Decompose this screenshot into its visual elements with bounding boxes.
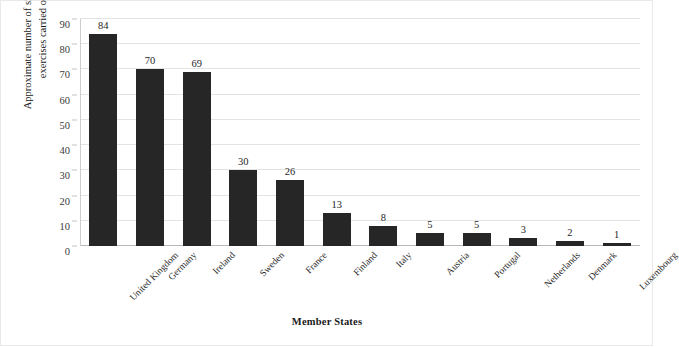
y-tick-mark bbox=[72, 69, 77, 70]
bar-group: 26 bbox=[267, 19, 314, 246]
bar bbox=[416, 233, 444, 246]
x-axis-title: Member States bbox=[0, 316, 654, 327]
bar bbox=[509, 238, 537, 246]
y-tick-mark bbox=[72, 44, 77, 45]
bar bbox=[136, 69, 164, 246]
bar-value-label: 2 bbox=[567, 227, 572, 238]
bar bbox=[463, 233, 491, 246]
x-tick-label: Sweden bbox=[258, 250, 286, 278]
y-tick-mark bbox=[72, 246, 77, 247]
bar-value-label: 3 bbox=[521, 224, 526, 235]
bar-group: 8 bbox=[360, 19, 407, 246]
y-axis-tick-labels: 0102030405060708090 bbox=[0, 19, 80, 246]
x-tick-label: Austria bbox=[444, 250, 471, 277]
bar-group: 1 bbox=[593, 19, 640, 246]
x-axis-tick-labels: United KingdomGermanyIrelandSwedenFrance… bbox=[80, 250, 640, 310]
x-tick-label: France bbox=[304, 250, 329, 275]
bar bbox=[276, 180, 304, 246]
bar-value-label: 13 bbox=[331, 199, 342, 210]
bar-value-label: 1 bbox=[614, 229, 619, 240]
bar-group: 5 bbox=[453, 19, 500, 246]
bar bbox=[369, 226, 397, 246]
bar bbox=[89, 34, 117, 246]
bar bbox=[603, 243, 631, 246]
bar-value-label: 30 bbox=[238, 156, 249, 167]
bar-group: 13 bbox=[313, 19, 360, 246]
y-tick-mark bbox=[72, 145, 77, 146]
x-tick-label: Netherlands bbox=[543, 250, 583, 290]
bar-value-label: 70 bbox=[145, 55, 156, 66]
x-tick-label: Finland bbox=[351, 250, 379, 278]
y-tick-mark bbox=[72, 94, 77, 95]
y-tick-mark bbox=[72, 119, 77, 120]
bar-group: 30 bbox=[220, 19, 267, 246]
x-tick-label: Italy bbox=[394, 250, 413, 269]
y-tick-mark bbox=[72, 19, 77, 20]
bar-group: 2 bbox=[547, 19, 594, 246]
bar-group: 3 bbox=[500, 19, 547, 246]
bar bbox=[229, 170, 257, 246]
y-tick-mark bbox=[72, 170, 77, 171]
x-tick-label: Denmark bbox=[586, 250, 618, 282]
y-tick-mark bbox=[72, 195, 77, 196]
bar-group: 84 bbox=[80, 19, 127, 246]
y-tick-mark bbox=[72, 220, 77, 221]
bar-value-label: 69 bbox=[191, 58, 202, 69]
bar-value-label: 84 bbox=[98, 20, 109, 31]
x-tick-label: Ireland bbox=[211, 250, 237, 276]
x-tick-label: Luxembourg bbox=[637, 250, 679, 292]
bar bbox=[183, 72, 211, 246]
bar bbox=[323, 213, 351, 246]
bars-layer: 847069302613855321 bbox=[80, 19, 640, 246]
x-tick-label: Portugal bbox=[492, 250, 522, 280]
bar bbox=[556, 241, 584, 246]
bar-value-label: 8 bbox=[381, 212, 386, 223]
bar-value-label: 26 bbox=[285, 166, 296, 177]
bar-value-label: 5 bbox=[427, 219, 432, 230]
bar-group: 69 bbox=[173, 19, 220, 246]
bar-value-label: 5 bbox=[474, 219, 479, 230]
bar-group: 5 bbox=[407, 19, 454, 246]
bar-group: 70 bbox=[127, 19, 174, 246]
